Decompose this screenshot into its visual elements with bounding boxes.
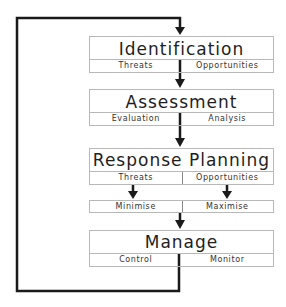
action-maximise: Maximise xyxy=(182,201,274,212)
arrow-to-maximise-icon xyxy=(222,191,232,199)
arrow-to-assessment-icon xyxy=(175,79,185,88)
sub-opportunities: Opportunities xyxy=(182,60,274,72)
stage-title: Manage xyxy=(90,232,273,252)
risk-management-diagram: Identification Threats Opportunities Ass… xyxy=(0,0,286,307)
stage-subrow: Control Monitor xyxy=(90,253,273,266)
stage-subrow: Threats Opportunities xyxy=(90,59,273,72)
stage-title: Response Planning xyxy=(90,150,273,170)
sub-threats: Threats xyxy=(90,60,182,72)
arrow-to-identification-icon xyxy=(175,27,185,35)
arrow-to-minimise-icon xyxy=(128,191,138,199)
stage-assessment: Assessment Evaluation Analysis xyxy=(89,89,274,126)
sub-analysis: Analysis xyxy=(182,113,274,125)
stage-response-actions: Minimise Maximise xyxy=(89,200,274,213)
sub-threats: Threats xyxy=(90,172,182,184)
stage-title: Assessment xyxy=(90,92,273,112)
sub-opportunities: Opportunities xyxy=(182,172,274,184)
stage-manage: Manage Control Monitor xyxy=(89,230,274,267)
arrow-to-response-planning-icon xyxy=(175,138,185,147)
stage-identification: Identification Threats Opportunities xyxy=(89,36,274,73)
stage-response-planning: Response Planning Threats Opportunities xyxy=(89,148,274,185)
arrow-to-manage-icon xyxy=(175,220,185,229)
stage-subrow: Evaluation Analysis xyxy=(90,112,273,125)
sub-monitor: Monitor xyxy=(182,254,274,266)
sub-evaluation: Evaluation xyxy=(90,113,182,125)
sub-control: Control xyxy=(90,254,182,266)
stage-title: Identification xyxy=(90,39,273,59)
stage-subrow: Threats Opportunities xyxy=(90,171,273,184)
action-minimise: Minimise xyxy=(90,201,182,212)
